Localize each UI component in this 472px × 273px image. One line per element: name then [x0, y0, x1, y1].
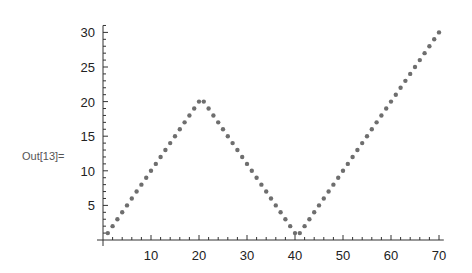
y-tick-label: 5	[88, 198, 95, 213]
data-point	[269, 196, 273, 200]
data-point	[130, 196, 134, 200]
data-point	[250, 169, 254, 173]
data-point	[413, 65, 417, 69]
y-tick-label: 30	[81, 25, 95, 40]
data-point	[274, 203, 278, 207]
data-point	[307, 217, 311, 221]
data-point	[187, 113, 191, 117]
data-point	[115, 217, 119, 221]
x-tick-label: 20	[192, 248, 206, 263]
x-tick-label: 70	[432, 248, 446, 263]
data-point	[202, 99, 206, 103]
data-point	[331, 182, 335, 186]
data-point	[154, 162, 158, 166]
data-point	[235, 148, 239, 152]
data-point	[384, 106, 388, 110]
data-point	[379, 113, 383, 117]
x-tick-label: 60	[384, 248, 398, 263]
data-point	[182, 120, 186, 124]
data-point	[211, 113, 215, 117]
data-point	[432, 37, 436, 41]
data-point	[365, 134, 369, 138]
y-tick-label: 25	[81, 60, 95, 75]
data-point	[355, 148, 359, 152]
data-point	[173, 134, 177, 138]
data-point	[178, 127, 182, 131]
data-point	[283, 217, 287, 221]
data-points	[106, 30, 442, 235]
data-point	[216, 120, 220, 124]
data-point	[437, 30, 441, 34]
data-point	[346, 162, 350, 166]
data-point	[418, 58, 422, 62]
data-point	[125, 203, 129, 207]
data-point	[427, 44, 431, 48]
data-point	[254, 176, 258, 180]
data-point	[298, 231, 302, 235]
data-point	[302, 224, 306, 228]
y-tick-label: 15	[81, 129, 95, 144]
data-point	[394, 92, 398, 96]
data-point	[221, 127, 225, 131]
data-point	[192, 106, 196, 110]
x-tick-label: 40	[288, 248, 302, 263]
data-point	[149, 169, 153, 173]
data-point	[120, 210, 124, 214]
data-point	[288, 224, 292, 228]
data-point	[163, 148, 167, 152]
data-point	[278, 210, 282, 214]
data-point	[350, 155, 354, 159]
data-point	[259, 182, 263, 186]
data-point	[336, 176, 340, 180]
data-point	[360, 141, 364, 145]
data-point	[374, 120, 378, 124]
data-point	[110, 224, 114, 228]
data-point	[158, 155, 162, 159]
data-point	[168, 141, 172, 145]
data-point	[240, 155, 244, 159]
data-point	[422, 51, 426, 55]
scatter-plot: 1020304050607051015202530	[0, 0, 472, 273]
data-point	[403, 79, 407, 83]
data-point	[322, 196, 326, 200]
x-tick-label: 30	[240, 248, 254, 263]
x-tick-label: 50	[336, 248, 350, 263]
x-tick-label: 10	[144, 248, 158, 263]
data-point	[398, 86, 402, 90]
axes: 1020304050607051015202530	[81, 25, 447, 263]
data-point	[106, 231, 110, 235]
data-point	[230, 141, 234, 145]
data-point	[408, 72, 412, 76]
data-point	[341, 169, 345, 173]
data-point	[197, 99, 201, 103]
data-point	[370, 127, 374, 131]
y-tick-label: 20	[81, 95, 95, 110]
data-point	[226, 134, 230, 138]
data-point	[312, 210, 316, 214]
y-tick-label: 10	[81, 164, 95, 179]
data-point	[134, 189, 138, 193]
data-point	[206, 106, 210, 110]
data-point	[144, 176, 148, 180]
data-point	[389, 99, 393, 103]
data-point	[326, 189, 330, 193]
data-point	[245, 162, 249, 166]
data-point	[317, 203, 321, 207]
data-point	[293, 231, 297, 235]
data-point	[139, 182, 143, 186]
data-point	[264, 189, 268, 193]
